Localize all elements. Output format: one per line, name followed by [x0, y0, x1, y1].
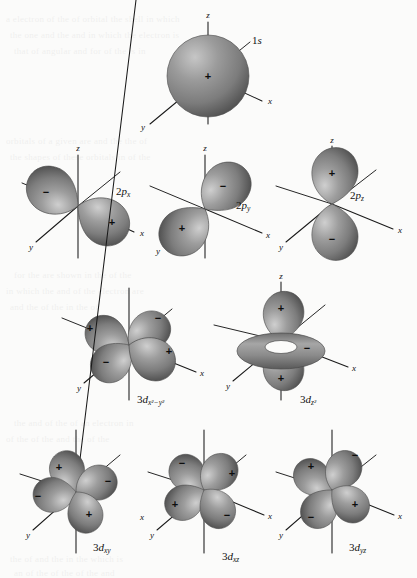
axis-label-x-1s: x: [267, 96, 272, 106]
orbital-label-1s: 1s: [252, 34, 262, 46]
sign-3dx2y2-1: −: [155, 312, 161, 324]
orbital-label-3dxy: 3dxy: [93, 541, 111, 555]
sign-3dyz-0: +: [308, 460, 314, 472]
axis-label-x-3dxz: x: [267, 511, 272, 521]
sign-3dxy-2: −: [35, 490, 41, 502]
sign-3dyz-2: −: [308, 511, 314, 523]
sign-3dxz-2: +: [172, 498, 178, 510]
orbital-label-3dx2y2: 3dx²−y²: [137, 393, 165, 407]
axis-label-y-2px: y: [28, 242, 33, 252]
orbital-3dxy: + − − + x y 3dxy: [20, 0, 144, 555]
axis-x-neg-2py: [150, 186, 205, 209]
axis-label-x-3dx2y2: x: [199, 368, 204, 378]
orbital-label-3dyz: 3dyz: [349, 541, 366, 555]
axis-x-2py: [205, 209, 262, 233]
axis-label-z-3dz2: z: [278, 271, 283, 281]
axis-label-x-3dz2: x: [351, 363, 356, 373]
axis-label-y-3dxy: y: [25, 530, 30, 540]
torus-3dz2-negative: [237, 333, 325, 369]
orbital-3dyz: + − − + x y 3dyz: [276, 430, 402, 555]
sign-1s-0: +: [205, 70, 211, 82]
axis-label-x-3dxy: x: [139, 512, 144, 522]
sign-3dxy-0: +: [56, 461, 62, 473]
axis-label-y-2pz: y: [278, 242, 283, 252]
axis-label-x-2pz: x: [397, 225, 402, 235]
orbital-2px: − + z x y 2px: [18, 143, 144, 258]
sign-2py-0: −: [220, 180, 226, 192]
orbital-3dx2y2: + − − + x y 3dx²−y²: [62, 288, 204, 407]
sign-3dxy-3: +: [86, 508, 92, 520]
sign-3dx2y2-3: +: [166, 345, 172, 357]
axis-label-y-3dx2y2: y: [76, 383, 81, 393]
orbital-1s: + z x y 1s: [140, 10, 272, 132]
sign-2py-1: +: [179, 222, 185, 234]
orbital-label-3dz2: 3dz²: [300, 393, 317, 407]
axis-label-y-3dyz: y: [278, 530, 283, 540]
sign-3dxy-1: −: [105, 475, 111, 487]
orbital-diagram-svg: + z x y 1s − + z x y 2p: [0, 0, 417, 578]
orbital-2py: − + z x y 2py: [150, 143, 270, 266]
sign-3dxz-3: −: [224, 509, 230, 521]
sign-3dz2-1: −: [304, 342, 310, 354]
axis-label-z-1s: z: [205, 10, 210, 20]
axis-label-y-3dz2: y: [225, 381, 230, 391]
axis-label-x-3dyz: x: [397, 511, 402, 521]
sign-3dz2-0: +: [278, 302, 284, 314]
axis-label-x-2px: x: [139, 228, 144, 238]
axis-label-y-1s: y: [140, 122, 145, 132]
orbital-3dxz: − + + − x y 3dxz: [148, 430, 272, 564]
axis-label-z-2py: z: [202, 143, 207, 153]
sign-3dyz-1: −: [352, 449, 358, 461]
sign-2pz-0: +: [329, 167, 335, 179]
sign-3dx2y2-2: −: [103, 356, 109, 368]
axis-label-x-2py: x: [265, 230, 270, 240]
sign-3dxz-0: −: [179, 457, 185, 469]
axis-label-y-2py: y: [155, 246, 160, 256]
orbital-label-2py: 2py: [236, 199, 251, 213]
axis-label-z-2px: z: [75, 143, 80, 153]
orbital-label-2pz: 2pz: [350, 189, 364, 203]
sign-3dz2-2: +: [278, 372, 284, 384]
axis-label-y-3dxz: y: [149, 530, 154, 540]
orbital-label-3dxz: 3dxz: [222, 550, 239, 564]
axis-label-z-2pz: z: [329, 135, 334, 145]
sign-2pz-1: −: [329, 233, 335, 245]
orbital-figure: + z x y 1s − + z x y 2p: [0, 0, 417, 578]
sign-2px-0: −: [43, 186, 49, 198]
sign-3dxz-1: +: [229, 467, 235, 479]
orbital-3dz2: + − + z x y 3dz²: [214, 271, 356, 407]
orbital-2pz: + − z x y 2pz: [276, 135, 402, 260]
sign-3dyz-3: +: [352, 498, 358, 510]
axis-x-3dxy: [76, 0, 136, 492]
sign-3dx2y2-0: +: [87, 322, 93, 334]
orbital-label-2px: 2px: [116, 185, 131, 199]
